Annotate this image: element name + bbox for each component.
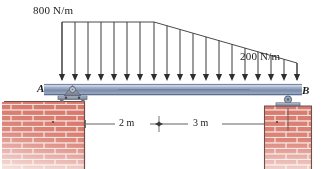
load-arrow	[72, 22, 78, 81]
load-arrow	[177, 30, 183, 82]
right-brick-pier	[264, 106, 312, 169]
load-arrow	[151, 22, 157, 81]
beam-loading-figure: 800 N/m 200 N/m A B 2 m 3 m	[0, 0, 327, 169]
load-arrow	[229, 44, 235, 81]
load-arrow	[59, 22, 65, 81]
load-arrow	[216, 41, 222, 81]
support-a-label: A	[37, 83, 44, 94]
load-arrow	[164, 26, 170, 81]
left-load-label: 800 N/m	[33, 5, 73, 16]
load-arrow	[281, 59, 287, 81]
load-arrow	[203, 37, 209, 81]
beam	[44, 84, 302, 95]
load-arrow	[124, 22, 130, 81]
right-load-label: 200 N/m	[240, 51, 280, 62]
load-arrow	[190, 33, 196, 81]
dimension-line	[86, 116, 265, 132]
dimension-label-segment-2: 3 m	[191, 118, 210, 128]
load-arrow	[85, 22, 91, 81]
left-brick-pier	[2, 101, 85, 169]
load-arrow	[98, 22, 104, 81]
figure-canvas	[0, 0, 327, 169]
dimension-label-segment-1: 2 m	[117, 118, 136, 128]
support-b-label: B	[302, 85, 309, 96]
support-b-roller	[276, 96, 300, 106]
load-arrow	[294, 63, 300, 81]
load-arrow	[137, 22, 143, 81]
load-arrow	[111, 22, 117, 81]
